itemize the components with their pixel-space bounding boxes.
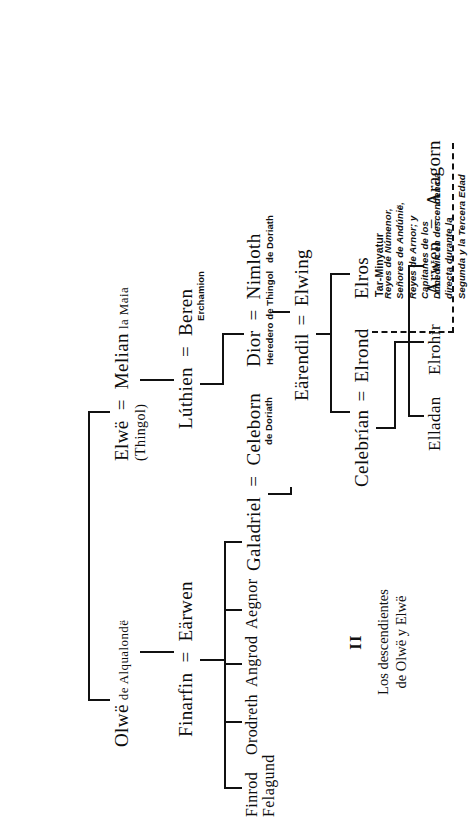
node-finrod: Finrod Felagund	[244, 754, 278, 817]
node-luthien-name: Lúthien	[175, 367, 196, 429]
drop-elrohir	[408, 341, 424, 343]
node-dior-nimloth: Dior = Nimloth Heredero de Thingol de Do…	[244, 233, 263, 367]
marriage-symbol-celebrian-elrond: =	[351, 386, 372, 405]
node-aegnor: Aegnor	[244, 579, 260, 629]
drop-aegnor	[224, 609, 242, 611]
drop-orodreth	[224, 721, 242, 723]
node-celeborn-name: Celeborn	[243, 393, 264, 466]
node-beren-name: Beren	[175, 289, 196, 336]
sibling-bracket-left-drop	[88, 699, 110, 701]
node-celebrian-elrond: Celebrían = Elrond	[352, 328, 371, 487]
descent-finarfin-stem	[200, 659, 224, 661]
node-elros-name: Elros	[351, 257, 372, 299]
descent-earendil-stem	[316, 333, 330, 335]
drop-elladan	[408, 415, 424, 417]
node-olwe: Olwë de Alqualondë	[112, 620, 131, 747]
descent-galadriel-stem	[268, 493, 290, 495]
node-elrohir-name: Elrohir	[425, 324, 444, 375]
drop-galadriel	[224, 541, 242, 543]
marriage-symbol-galadriel-celeborn: =	[243, 470, 264, 493]
drop-angrod	[224, 663, 242, 665]
marriage-symbol-arwen-aragorn: =	[423, 210, 444, 237]
node-melian-qualifier: la Maia	[116, 287, 131, 329]
node-arwen-name: Arwen	[423, 241, 444, 295]
node-elrond-name: Elrond	[351, 328, 372, 382]
marriage-symbol-earendil-elwing: =	[291, 310, 312, 329]
node-beren-qualifier: Erchamion	[196, 271, 207, 321]
connector-elrond-children	[394, 343, 396, 429]
node-galadriel-celeborn: Galadriel = Celeborn de Doriath	[244, 393, 263, 571]
descent-dior-stem	[272, 311, 290, 313]
drop-elrond	[330, 411, 350, 413]
sibling-bracket-top	[88, 411, 90, 701]
node-elwe-name: Elwë	[111, 420, 132, 461]
drop-finrod	[224, 787, 242, 789]
descent-celebrian-elrond-stem	[376, 427, 394, 429]
connector-galadriel-to-celebrian	[290, 487, 292, 495]
node-elladan: Elladan	[426, 396, 443, 451]
marriage-symbol-finarfin-earwen: =	[175, 645, 196, 668]
drop-arwen	[408, 265, 424, 267]
node-orodreth: Orodreth	[244, 694, 260, 755]
node-elrohir: Elrohir	[426, 324, 443, 375]
node-celebrian-name: Celebrían	[351, 410, 372, 487]
node-elladan-name: Elladan	[425, 396, 444, 451]
node-melian-name: Melian	[111, 333, 132, 389]
node-aegnor-name: Aegnor	[243, 579, 260, 629]
children-bar-earendil	[330, 273, 332, 413]
dotted-descent-to-aragorn-horizontal	[452, 143, 454, 333]
node-earwen-name: Eärwen	[175, 581, 196, 641]
node-elwe-qualifier: (Thingol)	[133, 404, 148, 461]
node-orodreth-name: Orodreth	[243, 694, 260, 755]
node-luthien-beren: Lúthien = Beren Erchamion	[176, 289, 195, 429]
node-aragorn-name: Aragorn	[423, 140, 444, 206]
node-dior-name: Dior	[243, 331, 264, 367]
drop-dior	[222, 333, 244, 335]
node-angrod-name: Angrod	[243, 636, 260, 687]
marriage-symbol-dior-nimloth: =	[243, 303, 264, 326]
children-stem-elrond	[394, 341, 408, 343]
node-nimloth-qualifier: de Doriath	[265, 215, 276, 263]
descent-luthien-to-dior	[200, 383, 222, 385]
figure-caption-text: Los descendientes de Olwë y Elwë	[374, 547, 410, 737]
descent-olwe-to-earwen	[140, 651, 174, 653]
node-finarfin-name: Finarfin	[175, 673, 196, 737]
marriage-symbol-elwe-melian: =	[111, 393, 132, 416]
node-angrod: Angrod	[244, 636, 260, 687]
node-dior-qualifier: Heredero de Thingol	[265, 271, 276, 365]
marriage-symbol-luthien-beren: =	[175, 340, 196, 363]
node-celeborn-qualifier: de Doriath	[264, 397, 275, 445]
children-bar-finarfin	[224, 543, 226, 789]
descent-elwe-to-luthien	[140, 379, 174, 381]
node-earendil-elwing: Eärendil = Elwing	[292, 249, 311, 401]
figure-numeral: II	[346, 547, 366, 737]
node-galadriel-name: Galadriel	[243, 497, 264, 571]
node-finrod-name: Finrod	[244, 754, 261, 817]
node-elwing-name: Elwing	[291, 249, 312, 306]
node-arwen-aragorn: Arwen = Aragorn	[424, 140, 443, 295]
sibling-bracket-right-drop	[88, 411, 110, 413]
node-elwe: Elwë = Melian la Maia (Thingol)	[112, 287, 131, 461]
node-finarfin-earwen: Finarfin = Eärwen	[176, 581, 195, 737]
node-olwe-qualifier: de Alqualondë	[116, 620, 131, 701]
figure-caption: II Los descendientes de Olwë y Elwë	[346, 547, 410, 737]
drop-elros	[330, 273, 350, 275]
node-olwe-name: Olwë	[111, 704, 132, 747]
node-nimloth-name: Nimloth	[243, 233, 264, 299]
node-finrod-qualifier: Felagund	[261, 754, 278, 817]
connector-luthien-to-dior	[222, 335, 224, 385]
node-elros: Elros Tar-Minyatur	[352, 257, 371, 299]
node-earendil-name: Eärendil	[291, 333, 312, 401]
